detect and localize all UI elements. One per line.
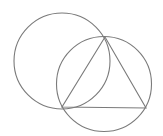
geometry-diagram	[0, 0, 163, 136]
background	[0, 0, 163, 136]
